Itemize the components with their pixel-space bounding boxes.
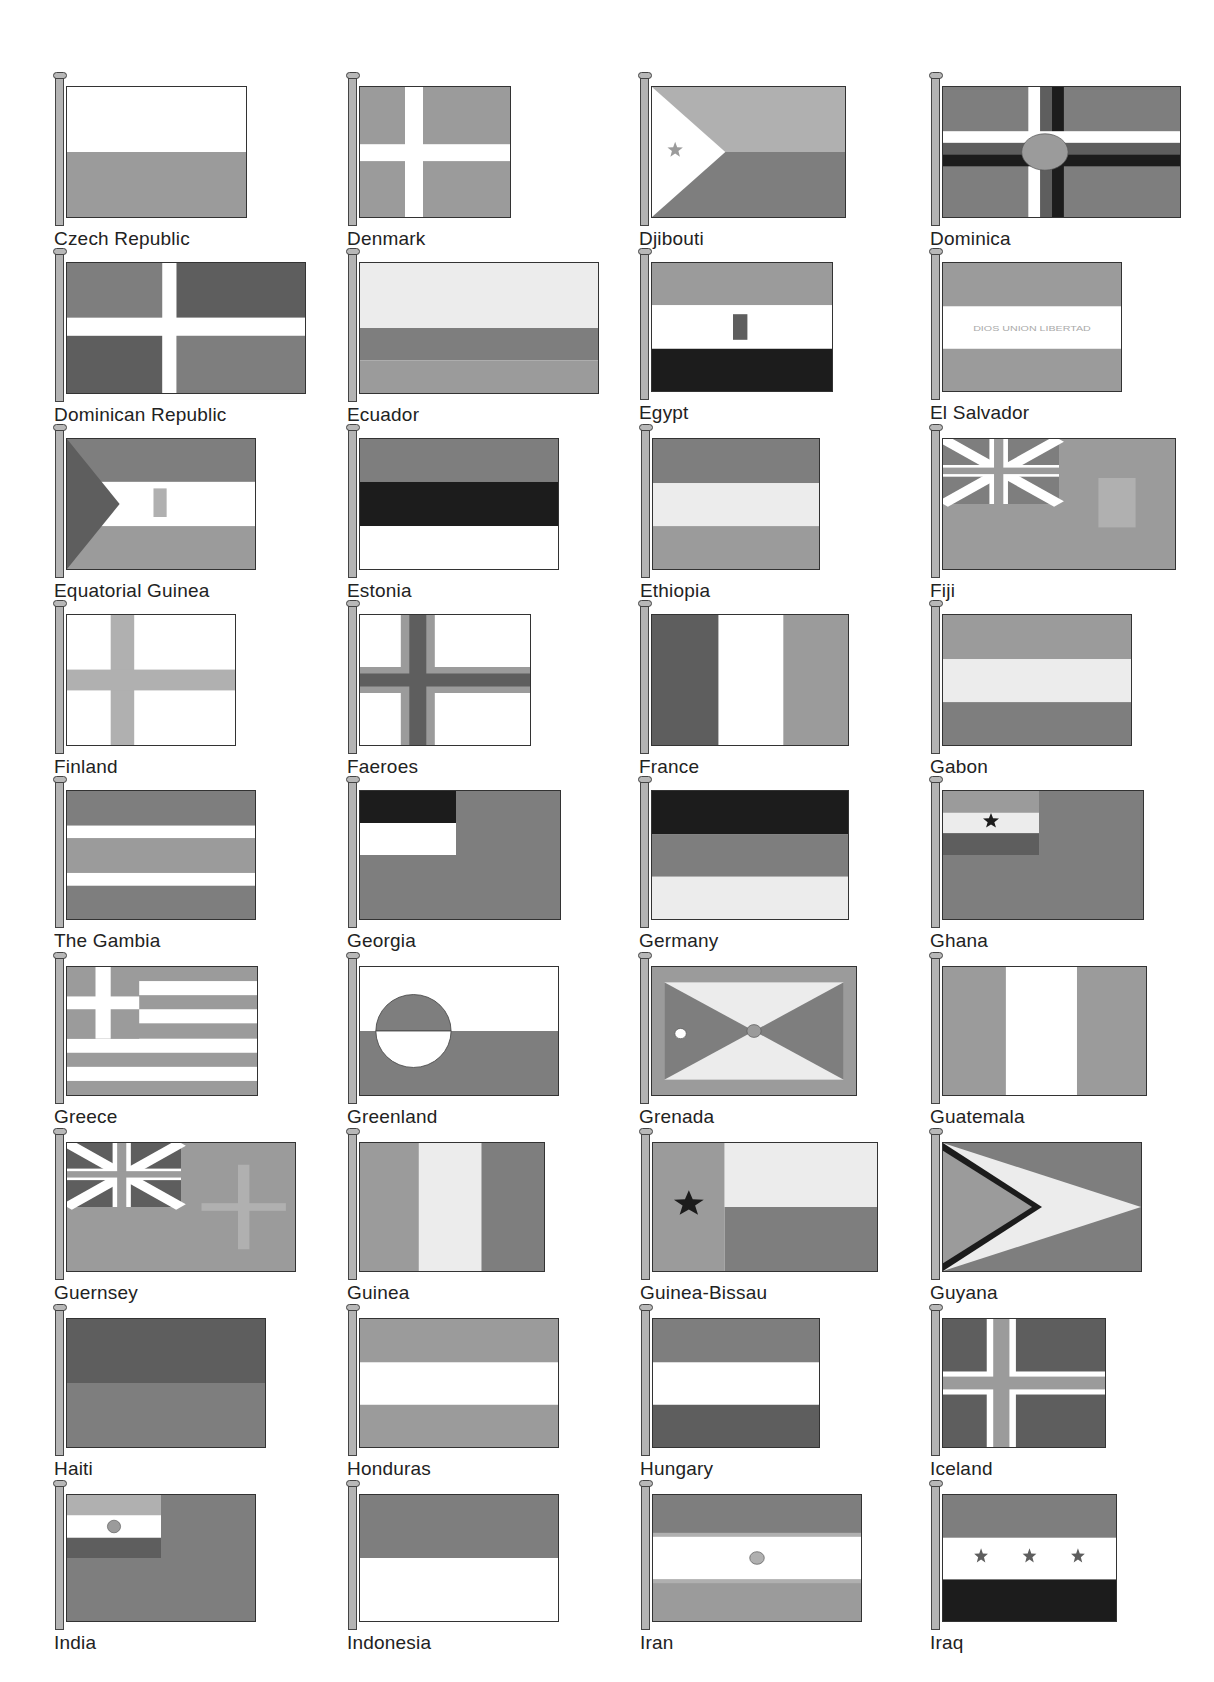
flagpole-icon (348, 1134, 357, 1280)
flag-label: Denmark (347, 228, 425, 250)
flag-label: El Salvador (930, 402, 1029, 424)
flag-dominica-icon (942, 86, 1181, 218)
flag-label: Finland (54, 756, 118, 778)
flag-label: The Gambia (54, 930, 161, 952)
flag-guernsey-icon (66, 1142, 296, 1272)
flagpole-icon (348, 430, 357, 578)
flag-label: Iran (640, 1632, 674, 1654)
flag-label: Ecuador (347, 404, 419, 426)
flag-ecuador-icon (359, 262, 599, 394)
flag-haiti-icon (66, 1318, 266, 1448)
flag-label: Haiti (54, 1458, 93, 1480)
flag-greece-icon (66, 966, 258, 1096)
flag-ethiopia-icon (652, 438, 820, 570)
flagpole-icon (640, 606, 649, 754)
flag-label: Hungary (640, 1458, 713, 1480)
flag-indonesia-icon (359, 1494, 559, 1622)
flagpole-icon (931, 430, 940, 578)
svg-text:DIOS UNION LIBERTAD: DIOS UNION LIBERTAD (973, 324, 1091, 332)
flag-label: Guatemala (930, 1106, 1025, 1128)
flagpole-icon (348, 78, 357, 226)
flag-label: Germany (639, 930, 719, 952)
flag-equatorial-guinea-icon (66, 438, 256, 570)
flag-label: Gabon (930, 756, 988, 778)
flagpole-icon (640, 782, 649, 928)
flagpole-icon (641, 1486, 650, 1630)
flagpole-icon (55, 1134, 64, 1280)
flag-the-gambia-icon (66, 790, 256, 920)
flagpole-icon (55, 606, 64, 754)
flag-dominican-republic-icon (66, 262, 306, 394)
flagpole-icon (931, 254, 940, 400)
flag-czech-republic-icon (66, 86, 247, 218)
flagpole-icon (55, 782, 64, 928)
flag-label: Iraq (930, 1632, 964, 1654)
flag-iceland-icon (942, 1318, 1106, 1448)
flagpole-icon (55, 1486, 64, 1630)
flag-guinea-icon (359, 1142, 545, 1272)
flagpole-icon (931, 958, 940, 1104)
flag-faeroes-icon (359, 614, 531, 746)
flag-label: Indonesia (347, 1632, 431, 1654)
flag-label: Guinea (347, 1282, 409, 1304)
flagpole-icon (931, 782, 940, 928)
flag-label: Greece (54, 1106, 118, 1128)
flagpole-icon (640, 958, 649, 1104)
flag-label: India (54, 1632, 96, 1654)
flagpole-icon (348, 1486, 357, 1630)
flag-fiji-icon (942, 438, 1176, 570)
flagpole-icon (55, 254, 64, 402)
flag-grenada-icon (651, 966, 857, 1096)
flagpole-icon (641, 1134, 650, 1280)
flag-guyana-icon (942, 1142, 1142, 1272)
flag-el-salvador-icon: DIOS UNION LIBERTAD (942, 262, 1122, 392)
flagpole-icon (348, 1310, 357, 1456)
flag-egypt-icon (651, 262, 833, 392)
flag-honduras-icon (359, 1318, 559, 1448)
flagpole-icon (641, 430, 650, 578)
flagpole-icon (348, 782, 357, 928)
flag-label: Czech Republic (54, 228, 190, 250)
flag-label: Guinea-Bissau (640, 1282, 767, 1304)
flagpole-icon (55, 430, 64, 578)
flagpole-icon (348, 254, 357, 402)
flag-ghana-icon (942, 790, 1144, 920)
flag-guatemala-icon (942, 966, 1147, 1096)
flag-iran-icon (652, 1494, 862, 1622)
flagpole-icon (348, 606, 357, 754)
flagpole-icon (931, 78, 940, 226)
flag-label: Estonia (347, 580, 412, 602)
flag-iraq-icon (942, 1494, 1117, 1622)
flag-label: Greenland (347, 1106, 438, 1128)
flag-label: Fiji (930, 580, 955, 602)
flag-finland-icon (66, 614, 236, 746)
flagpole-icon (641, 1310, 650, 1456)
flag-germany-icon (651, 790, 849, 920)
flag-label: Dominican Republic (54, 404, 227, 426)
flag-label: Guernsey (54, 1282, 138, 1304)
flagpole-icon (931, 1310, 940, 1456)
flag-label: Faeroes (347, 756, 418, 778)
flag-georgia-icon (359, 790, 561, 920)
flag-label: France (639, 756, 699, 778)
flag-label: Grenada (639, 1106, 714, 1128)
flagpole-icon (55, 1310, 64, 1456)
flag-label: Djibouti (639, 228, 704, 250)
flagpole-icon (931, 606, 940, 754)
flagpole-icon (931, 1134, 940, 1280)
flag-france-icon (651, 614, 849, 746)
flagpole-icon (640, 78, 649, 226)
flag-djibouti-icon (651, 86, 846, 218)
flag-label: Ghana (930, 930, 988, 952)
flag-india-icon (66, 1494, 256, 1622)
flag-label: Iceland (930, 1458, 993, 1480)
flag-hungary-icon (652, 1318, 820, 1448)
flag-label: Guyana (930, 1282, 998, 1304)
flag-label: Dominica (930, 228, 1011, 250)
flag-estonia-icon (359, 438, 559, 570)
flag-label: Georgia (347, 930, 416, 952)
flagpole-icon (55, 958, 64, 1104)
flag-label: Honduras (347, 1458, 431, 1480)
flag-guinea-bissau-icon (652, 1142, 878, 1272)
flag-greenland-icon (359, 966, 559, 1096)
